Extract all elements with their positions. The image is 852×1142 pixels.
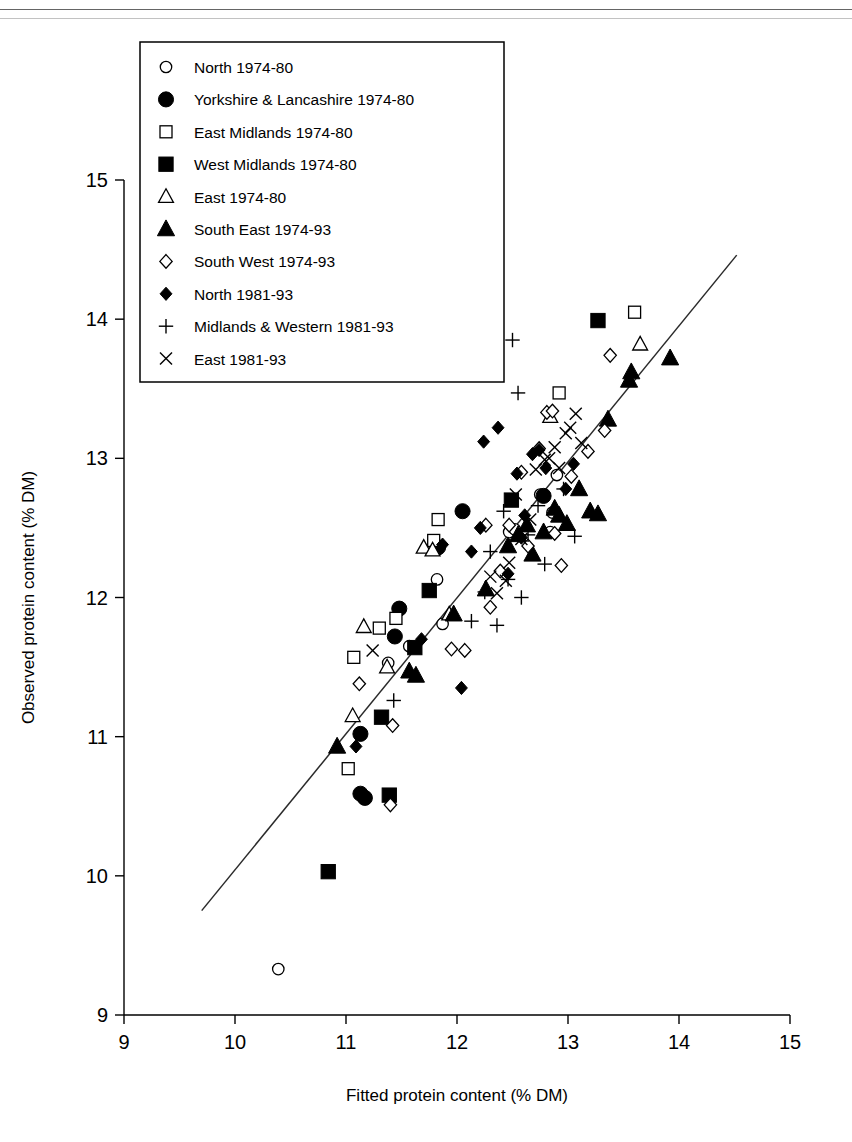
legend-item[interactable]: Yorkshire & Lancashire 1974-80 [158,91,414,108]
marker-open-diamond [445,642,457,656]
x-tick-label: 11 [336,1031,357,1053]
marker-plus [464,614,478,628]
marker-filled-circle [387,629,402,644]
marker-filled-circle [455,504,470,519]
marker-open-circle [160,61,171,72]
marker-cross [503,557,515,569]
legend-item-label: East 1981-93 [194,351,286,368]
marker-open-triangle [356,619,371,633]
marker-open-square [629,306,641,318]
legend-item-label: North 1981-93 [194,286,293,303]
marker-open-square [373,622,385,634]
x-axis-title: Fitted protein content (% DM) [346,1086,568,1105]
marker-open-square [342,763,354,775]
marker-cross [560,427,572,439]
marker-cross [564,422,576,434]
legend-item-label: East Midlands 1974-80 [194,124,353,141]
marker-filled-square [159,157,173,171]
legend: North 1974-80Yorkshire & Lancashire 1974… [140,42,504,382]
marker-plus [490,618,504,632]
marker-plus [505,333,519,347]
legend-item-label: South West 1974-93 [194,253,335,270]
marker-open-diamond [459,644,471,658]
marker-open-square [348,651,360,663]
x-tick-label: 15 [779,1031,801,1053]
marker-filled-square [321,865,335,879]
marker-open-square [432,514,444,526]
legend-item-label: North 1974-80 [194,59,293,76]
x-tick-label: 9 [118,1031,129,1053]
marker-open-diamond [604,349,616,363]
marker-filled-square [591,313,605,327]
legend-item-label: South East 1974-93 [194,221,331,238]
y-axis-title: Observed protein content (% DM) [19,471,38,724]
marker-filled-triangle [623,363,640,379]
y-tick-label: 9 [97,1004,108,1026]
y-tick-label: 15 [86,169,108,191]
marker-filled-diamond [478,435,490,448]
marker-open-circle [273,963,284,974]
marker-open-diamond [555,559,567,573]
marker-filled-triangle [599,410,616,426]
x-tick-label: 14 [668,1031,690,1053]
legend-item-label: Yorkshire & Lancashire 1974-80 [194,91,414,108]
marker-cross [549,441,561,453]
marker-plus [387,693,401,707]
marker-open-diamond [582,445,594,459]
marker-open-diamond [353,677,365,691]
marker-filled-diamond [465,545,477,558]
series-open-diamond [353,349,616,812]
x-tick-label: 12 [446,1031,468,1053]
legend-item-label: Midlands & Western 1981-93 [194,318,394,335]
y-tick-label: 11 [87,726,108,748]
marker-open-square [390,612,402,624]
marker-cross [484,571,496,583]
marker-plus [567,529,581,543]
marker-filled-triangle [329,737,346,753]
x-tick-label: 13 [557,1031,579,1053]
marker-cross [575,437,587,449]
marker-filled-square [374,710,388,724]
x-tick-label: 10 [224,1031,246,1053]
marker-open-triangle [345,708,360,722]
y-tick-label: 10 [86,865,108,887]
series-filled-diamond [350,421,579,753]
plot-canvas: 91011121314159101112131415Fitted protein… [0,0,852,1142]
scatter-plot-figure: 91011121314159101112131415Fitted protein… [0,0,852,1142]
marker-filled-circle [357,790,372,805]
marker-filled-diamond [492,421,504,434]
marker-open-diamond [565,470,577,484]
marker-open-triangle [633,336,648,350]
marker-filled-square [422,583,436,597]
y-tick-label: 13 [86,447,108,469]
marker-cross [570,408,582,420]
marker-filled-circle [353,726,368,741]
marker-filled-circle [158,92,173,107]
y-tick-label: 12 [86,587,108,609]
marker-filled-diamond [456,681,468,694]
marker-open-diamond [484,600,496,614]
legend-item[interactable]: Midlands & Western 1981-93 [159,318,394,335]
marker-open-square [160,126,172,138]
legend-item-label: East 1974-80 [194,189,287,206]
marker-cross [367,644,379,656]
marker-plus [483,544,497,558]
marker-open-square [553,387,565,399]
series-filled-triangle [329,349,679,753]
y-tick-label: 14 [86,308,108,330]
marker-plus [556,482,570,496]
marker-filled-triangle [662,349,679,365]
marker-plus [514,590,528,604]
data-points-layer [273,306,679,975]
marker-plus [511,386,525,400]
legend-item-label: West Midlands 1974-80 [194,156,357,173]
series-open-circle [273,469,563,974]
